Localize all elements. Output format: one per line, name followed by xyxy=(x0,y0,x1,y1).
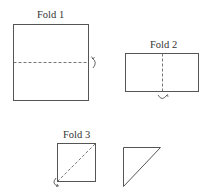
result-triangle xyxy=(124,148,161,187)
fold-1-square xyxy=(14,25,96,101)
folding-diagram xyxy=(0,0,213,189)
fold-3-square xyxy=(54,144,96,187)
curl-arrow-icon xyxy=(92,58,95,68)
curl-arrow-icon xyxy=(158,95,167,99)
fold-3-dashed-line xyxy=(58,144,96,182)
fold-2-rectangle xyxy=(126,54,199,99)
